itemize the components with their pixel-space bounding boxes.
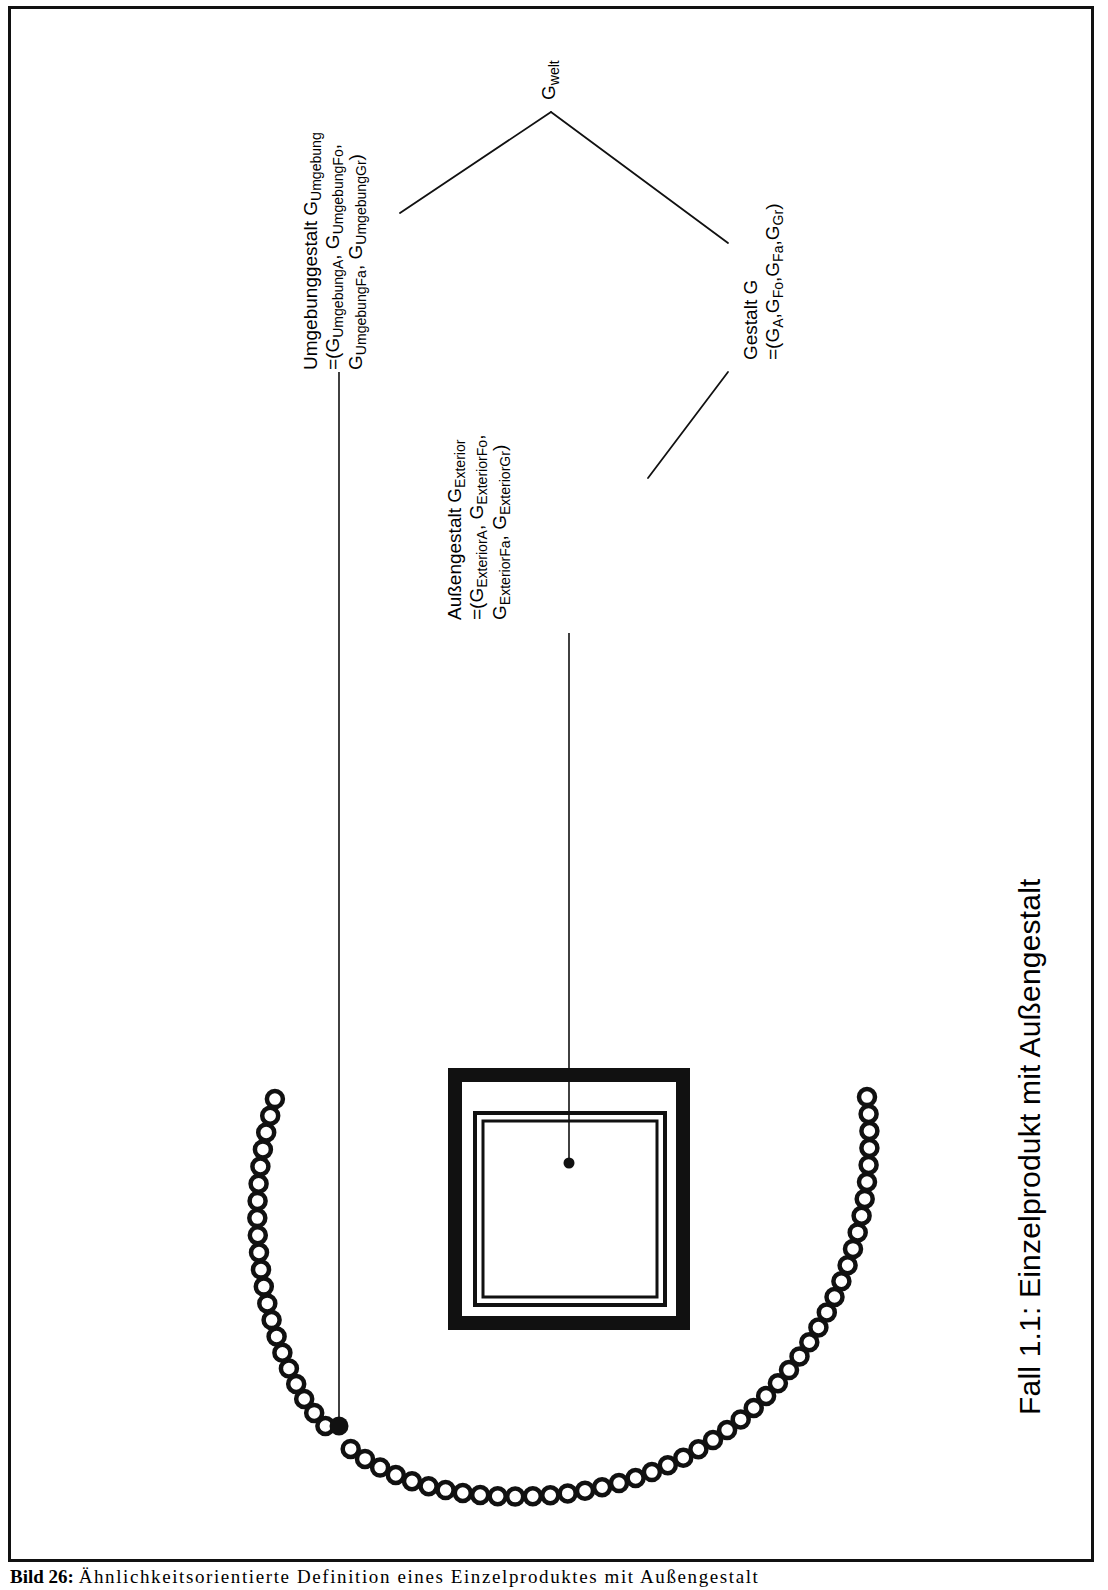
gestalt-l2-a: =(G bbox=[762, 328, 783, 360]
node-label-umgebung: Umgebunggestalt GUmgebung =(GUmgebungA, … bbox=[300, 132, 367, 370]
exterior-l2-b: , G bbox=[466, 505, 487, 530]
node-label-exterior: Außengestalt GExterior =(GExteriorA, GEx… bbox=[444, 435, 511, 620]
caption-text: Ähnlichkeitsorientierte Definition eines… bbox=[79, 1566, 760, 1587]
gestalt-l2-sub1: A bbox=[770, 318, 786, 327]
gestalt-l2-sub3: Fa bbox=[770, 245, 786, 261]
welt-main: G bbox=[538, 85, 559, 100]
umgebung-l3-sub2: Umgebung bbox=[353, 176, 369, 245]
umgebung-title: Umgebunggestalt G bbox=[300, 201, 321, 370]
figure-side-caption: Fall 1.1: Einzelprodukt mit Außengestalt bbox=[1012, 878, 1047, 1415]
gestalt-l2-c: ,G bbox=[762, 262, 783, 282]
umgebung-title-sub: Umgebung bbox=[308, 132, 324, 201]
umgebung-l3-b: , G bbox=[345, 245, 366, 270]
exterior-l3-sub2: Exterior bbox=[497, 467, 513, 515]
umgebung-l2-subsub2: Fo bbox=[330, 149, 346, 165]
gestalt-title: Gestalt G bbox=[740, 280, 761, 360]
figure-border bbox=[8, 6, 1094, 1562]
exterior-l2-sub1: Exterior bbox=[474, 539, 490, 587]
node-label-gestalt: Gestalt G =(GA,GFo,GFa,GGr) bbox=[740, 203, 785, 360]
caption-number: Bild 26: bbox=[10, 1566, 74, 1587]
figure-bottom-caption: Bild 26: Ähnlichkeitsorientierte Definit… bbox=[10, 1566, 1100, 1588]
gestalt-l2-sub2: Fo bbox=[770, 282, 786, 298]
exterior-l3-a: G bbox=[489, 605, 510, 620]
umgebung-l3-sub1: Umgebung bbox=[353, 287, 369, 356]
exterior-l2-subsub1: A bbox=[474, 530, 490, 539]
umgebung-l2-a: =(G bbox=[322, 338, 343, 370]
gestalt-l2-e: ) bbox=[762, 203, 783, 209]
umgebung-l3-a: G bbox=[345, 355, 366, 370]
umgebung-l2-sub1: Umgebung bbox=[330, 269, 346, 338]
exterior-l2-subsub2: Fo bbox=[474, 440, 490, 456]
exterior-l3-sub1: Exterior bbox=[497, 557, 513, 605]
umgebung-l2-b: , G bbox=[322, 234, 343, 259]
umgebung-l2-sub2: Umgebung bbox=[330, 166, 346, 235]
welt-sub: welt bbox=[546, 60, 562, 85]
exterior-l2-sub2: Exterior bbox=[474, 456, 490, 504]
exterior-l3-subsub2: Gr bbox=[497, 451, 513, 467]
exterior-l2-a: =(G bbox=[466, 588, 487, 620]
exterior-l3-subsub1: Fa bbox=[497, 540, 513, 556]
gestalt-l2-b: ,G bbox=[762, 298, 783, 318]
figure-page: Gwelt Umgebunggestalt GUmgebung =(GUmgeb… bbox=[0, 0, 1108, 1590]
umgebung-l3-subsub1: Fa bbox=[353, 270, 369, 286]
gestalt-l2-sub4: Gr bbox=[770, 210, 786, 226]
umgebung-l3-subsub2: Gr bbox=[353, 160, 369, 176]
exterior-title-sub: Exterior bbox=[452, 440, 468, 488]
node-label-welt: Gwelt bbox=[538, 60, 560, 100]
exterior-l3-b: , G bbox=[489, 515, 510, 540]
umgebung-l2-subsub1: A bbox=[330, 260, 346, 269]
gestalt-l2-d: ,G bbox=[762, 225, 783, 245]
exterior-title: Außengestalt G bbox=[444, 488, 465, 620]
